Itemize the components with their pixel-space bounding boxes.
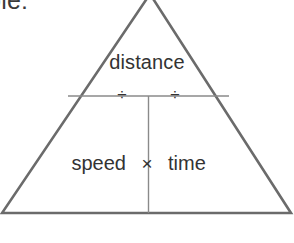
formula-triangle: distance ÷ ÷ speed × time [0, 0, 294, 243]
operator-divide-left: ÷ [112, 86, 132, 103]
cell-label-distance: distance [0, 51, 294, 74]
cell-label-speed: speed [60, 152, 136, 175]
bottom-cells-row: speed × time [0, 152, 294, 175]
triangle-outline-icon [0, 0, 294, 243]
operator-multiply: × [136, 154, 158, 173]
operator-divide-right: ÷ [165, 86, 185, 103]
diagram-canvas: mple: e: distance ÷ ÷ speed × time [0, 0, 294, 243]
cell-label-time: time [158, 152, 234, 175]
